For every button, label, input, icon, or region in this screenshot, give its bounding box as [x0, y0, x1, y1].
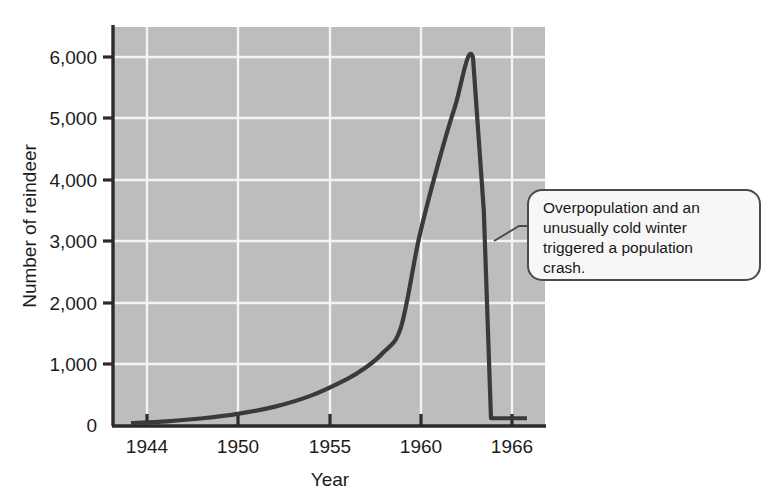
x-tick-label-1966: 1966: [491, 436, 533, 457]
callout-line-3: triggered a population: [543, 239, 693, 256]
chart-canvas: 0 1,000 2,000 3,000 4,000 5,000 6,000 19…: [0, 0, 775, 497]
y-tick-label-5000: 5,000: [49, 108, 97, 129]
y-axis-title: Number of reindeer: [19, 143, 40, 307]
y-tick-label-0: 0: [86, 415, 97, 436]
y-tick-label-6000: 6,000: [49, 47, 97, 68]
y-tick-label-1000: 1,000: [49, 354, 97, 375]
x-tick-label-1960: 1960: [400, 436, 442, 457]
callout-line-4: crash.: [543, 259, 585, 276]
x-tick-label-1955: 1955: [309, 436, 351, 457]
y-tick-label-3000: 3,000: [49, 231, 97, 252]
y-tick-label-4000: 4,000: [49, 170, 97, 191]
callout-line-1: Overpopulation and an: [543, 199, 700, 216]
x-axis-title: Year: [311, 469, 350, 490]
reindeer-population-figure: 0 1,000 2,000 3,000 4,000 5,000 6,000 19…: [0, 0, 775, 497]
x-tick-label-1950: 1950: [217, 436, 259, 457]
x-tick-label-1944: 1944: [126, 436, 169, 457]
callout-line-2: unusually cold winter: [543, 219, 687, 236]
y-tick-label-2000: 2,000: [49, 293, 97, 314]
